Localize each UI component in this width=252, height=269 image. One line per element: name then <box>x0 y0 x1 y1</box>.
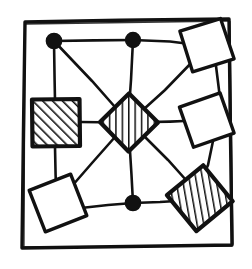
node-shape <box>126 33 141 48</box>
node-top-center-circle[interactable] <box>126 33 141 48</box>
edge-top-left-to-left-middle <box>54 41 55 100</box>
node-top-left-circle[interactable] <box>46 33 61 48</box>
figure-root: Hand-drawn graph of nine nodes on a thre… <box>0 0 252 269</box>
node-shape <box>125 195 140 210</box>
edge-top-left-to-top-center <box>54 40 133 41</box>
graph-diagram-canvas <box>0 0 252 269</box>
node-shape <box>32 99 80 147</box>
node-bottom-center-circle[interactable] <box>125 195 140 210</box>
node-left-middle-hatched-square[interactable] <box>32 99 80 147</box>
node-shape <box>46 33 61 48</box>
